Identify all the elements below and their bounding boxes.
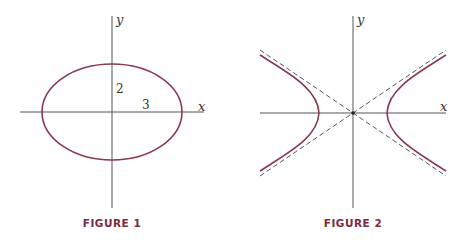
fig1-caption: FIGURE 1 [83,217,141,229]
fig2-x-label: x [440,99,448,114]
figure-1: y x 2 3 FIGURE 1 [20,12,206,229]
fig1-label-2: 2 [116,82,124,96]
fig2-y-label: y [356,12,365,27]
figures-canvas: y x 2 3 FIGURE 1 y x FIGURE 2 [0,0,463,246]
fig1-label-3: 3 [142,98,150,112]
fig2-origin-dot [351,111,355,115]
fig1-y-label: y [115,12,124,27]
fig2-caption: FIGURE 2 [324,217,382,229]
figure-2: y x FIGURE 2 [260,12,448,229]
fig1-x-label: x [198,99,206,114]
